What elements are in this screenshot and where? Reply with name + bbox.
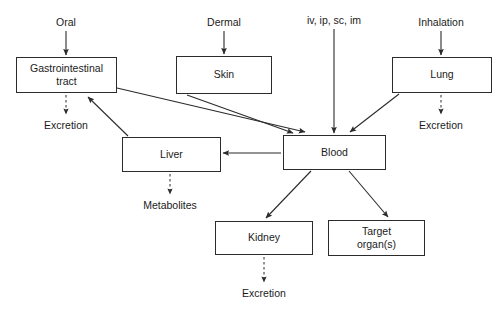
node-lung[interactable]: Lung — [392, 57, 492, 93]
node-target[interactable]: Target organ(s) — [328, 220, 425, 256]
edge-blood-to-target — [349, 171, 388, 217]
edge-gi-to-blood — [117, 88, 305, 132]
diagram-canvas: Gastrointestinal tractSkinLungLiverBlood… — [0, 0, 501, 310]
label-output-excretion-kidney: Excretion — [242, 287, 286, 300]
node-skin[interactable]: Skin — [176, 56, 272, 94]
edge-lung-to-blood — [350, 94, 399, 132]
label-output-metabolites: Metabolites — [143, 199, 197, 212]
node-kidney[interactable]: Kidney — [215, 221, 313, 255]
edge-blood-to-kidney — [266, 171, 311, 218]
label-output-excretion-gi: Excretion — [44, 119, 88, 132]
label-route-oral: Oral — [56, 16, 76, 29]
edge-liver-to-gi — [88, 97, 128, 136]
label-route-parenteral: iv, ip, sc, im — [307, 14, 361, 27]
edge-layer — [0, 0, 501, 310]
label-output-excretion-lung: Excretion — [419, 119, 463, 132]
node-gi[interactable]: Gastrointestinal tract — [16, 57, 117, 93]
label-route-dermal: Dermal — [207, 16, 241, 29]
label-route-inhalation: Inhalation — [418, 16, 464, 29]
node-liver[interactable]: Liver — [122, 137, 221, 172]
edge-skin-to-blood — [187, 95, 293, 133]
node-blood[interactable]: Blood — [283, 135, 386, 170]
